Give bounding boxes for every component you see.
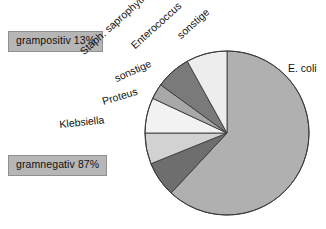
pie-slice-group (145, 51, 309, 215)
group-badge-gramnegativ: gramnegativ 87% (8, 155, 107, 176)
slice-label-e-coli: E. coli (288, 63, 317, 74)
pie-chart-figure: grampositiv 13% gramnegativ 87% Staph. s… (0, 0, 326, 229)
